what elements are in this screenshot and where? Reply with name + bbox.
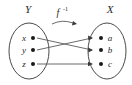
function-label: f	[57, 7, 61, 18]
element-dot-c	[99, 62, 103, 66]
set-label-codomain: X	[106, 3, 115, 15]
diagram-canvas: Y f -1 X x y z a b c	[0, 0, 132, 85]
element-label-y: y	[21, 45, 26, 55]
function-direction-arc	[52, 21, 73, 24]
function-inverse-mapping-diagram: Y f -1 X x y z a b c	[0, 0, 132, 85]
element-label-z: z	[21, 59, 26, 69]
set-label-domain: Y	[25, 3, 33, 15]
element-dot-x	[31, 36, 35, 40]
element-dot-y	[31, 48, 35, 52]
element-label-b: b	[108, 45, 113, 55]
element-label-a: a	[108, 33, 113, 43]
element-dot-b	[99, 48, 103, 52]
domain-set-ellipse	[9, 23, 49, 79]
element-label-c: c	[108, 59, 112, 69]
element-dot-z	[31, 62, 35, 66]
function-exponent-label: -1	[63, 6, 68, 12]
function-direction-arrowhead	[72, 21, 77, 26]
element-dot-a	[99, 36, 103, 40]
mapping-arrowhead-b	[88, 48, 93, 53]
element-label-x: x	[21, 33, 26, 43]
